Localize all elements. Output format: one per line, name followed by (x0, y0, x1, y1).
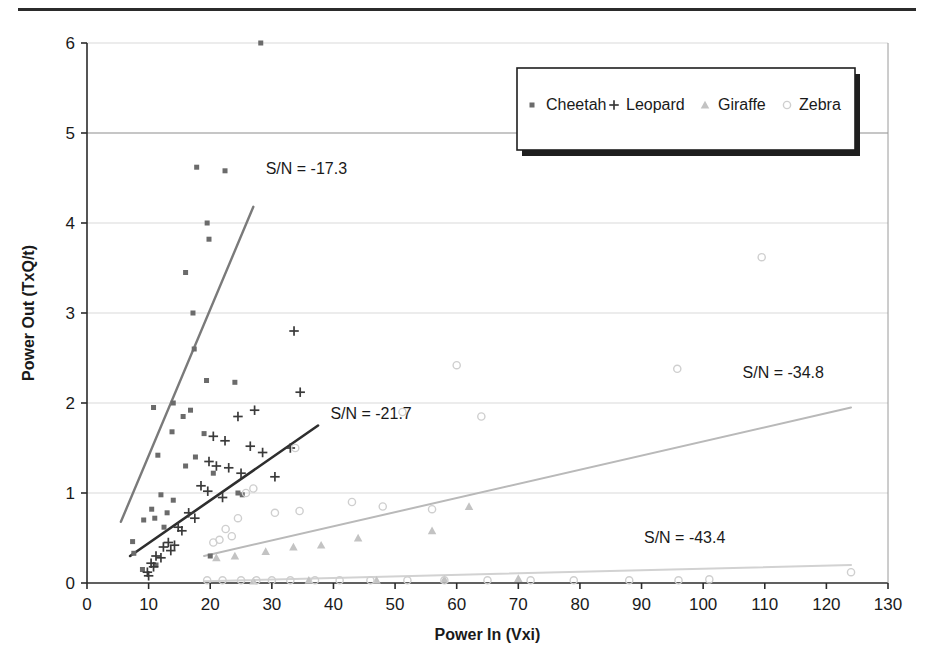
point-zebra-14 (222, 525, 229, 532)
point-zebra-9 (379, 503, 386, 510)
x-tick-label-20: 20 (201, 595, 220, 614)
x-tick-label-40: 40 (324, 595, 343, 614)
point-giraffe-5 (261, 547, 270, 555)
x-tick-label-0: 0 (82, 595, 91, 614)
point-zebra-11 (296, 507, 303, 514)
point-cheetah-14 (170, 429, 175, 434)
y-tick-label-3: 3 (66, 304, 75, 323)
point-giraffe-8 (514, 574, 523, 582)
point-cheetah-29 (130, 539, 135, 544)
point-cheetah-8 (204, 378, 209, 383)
annotation-sn-4: S/N = -43.4 (644, 529, 725, 546)
y-tick-label-5: 5 (66, 124, 75, 143)
point-leopard-5 (220, 436, 230, 446)
x-tick-label-50: 50 (386, 595, 405, 614)
trend-line-3 (204, 408, 851, 557)
point-leopard-10 (212, 461, 222, 471)
y-tick-label-6: 6 (66, 34, 75, 53)
x-tick-label-80: 80 (570, 595, 589, 614)
point-cheetah-4 (206, 237, 211, 242)
series-cheetah (130, 41, 263, 573)
point-zebra-18 (847, 569, 854, 576)
x-tick-label-90: 90 (632, 595, 651, 614)
legend-marker-cheetah (530, 103, 535, 108)
y-tick-label-0: 0 (66, 574, 75, 593)
point-cheetah-16 (155, 453, 160, 458)
point-zebra-2 (453, 362, 460, 369)
x-tick-label-30: 30 (262, 595, 281, 614)
point-leopard-8 (258, 448, 268, 458)
point-cheetah-9 (232, 380, 237, 385)
point-leopard-25 (151, 551, 161, 561)
point-cheetah-27 (141, 518, 146, 523)
point-cheetah-23 (171, 498, 176, 503)
point-cheetah-6 (190, 311, 195, 316)
point-leopard-2 (250, 405, 260, 415)
point-cheetah-24 (149, 507, 154, 512)
x-axis-title: Power In (Vxi) (435, 626, 541, 643)
point-cheetah-0 (258, 41, 263, 46)
point-cheetah-15 (202, 431, 207, 436)
point-cheetah-33 (140, 567, 145, 572)
y-tick-label-4: 4 (66, 214, 75, 233)
scatter-plot-canvas: 01234560102030405060708090100110120130 S… (0, 0, 934, 657)
point-zebra-15 (228, 533, 235, 540)
point-zebra-8 (348, 498, 355, 505)
point-leopard-0 (289, 326, 299, 336)
point-zebra-0 (758, 254, 765, 261)
point-leopard-6 (246, 441, 256, 451)
annotations: S/N = -17.3S/N = -21.7S/N = -34.8S/N = -… (266, 160, 824, 546)
point-cheetah-18 (183, 464, 188, 469)
point-cheetah-5 (183, 270, 188, 275)
point-zebra-1 (674, 365, 681, 372)
y-tick-label-1: 1 (66, 484, 75, 503)
point-cheetah-13 (181, 414, 186, 419)
legend-label-zebra: Zebra (799, 96, 841, 113)
point-zebra-17 (210, 539, 217, 546)
point-cheetah-25 (165, 510, 170, 515)
point-giraffe-3 (317, 541, 326, 549)
annotation-sn-1: S/N = -17.3 (266, 160, 347, 177)
point-cheetah-30 (131, 551, 136, 556)
point-zebra-10 (428, 506, 435, 513)
point-cheetah-31 (208, 554, 213, 559)
trend-lines (121, 207, 851, 581)
point-leopard-3 (233, 412, 243, 422)
y-axis-title: Power Out (TxQ/t) (20, 245, 37, 381)
annotation-sn-2: S/N = -21.7 (330, 405, 411, 422)
point-zebra-13 (234, 515, 241, 522)
point-cheetah-19 (211, 471, 216, 476)
legend-label-cheetah: Cheetah (546, 96, 607, 113)
point-zebra-3 (478, 413, 485, 420)
point-cheetah-28 (162, 525, 167, 530)
x-tick-label-100: 100 (689, 595, 717, 614)
legend-label-giraffe: Giraffe (718, 96, 766, 113)
point-cheetah-12 (188, 408, 193, 413)
point-cheetah-20 (235, 491, 240, 496)
point-cheetah-10 (171, 401, 176, 406)
point-leopard-9 (204, 457, 214, 467)
point-zebra-6 (250, 485, 257, 492)
x-tick-label-130: 130 (874, 595, 902, 614)
point-cheetah-11 (151, 405, 156, 410)
point-cheetah-1 (194, 165, 199, 170)
chart-legend: CheetahLeopardGiraffeZebra (517, 68, 860, 156)
point-zebra-12 (271, 509, 278, 516)
point-leopard-14 (196, 481, 206, 491)
chart-figure: 01234560102030405060708090100110120130 S… (0, 0, 934, 657)
point-cheetah-3 (205, 221, 210, 226)
point-leopard-11 (224, 463, 234, 473)
point-leopard-4 (209, 432, 219, 442)
point-giraffe-1 (428, 527, 437, 535)
x-tick-label-60: 60 (447, 595, 466, 614)
point-giraffe-2 (354, 534, 363, 542)
x-tick-label-120: 120 (812, 595, 840, 614)
annotation-sn-3: S/N = -34.8 (743, 364, 824, 381)
legend-label-leopard: Leopard (626, 96, 685, 113)
y-tick-label-2: 2 (66, 394, 75, 413)
point-giraffe-6 (231, 552, 240, 560)
x-tick-label-10: 10 (139, 595, 158, 614)
point-cheetah-22 (158, 492, 163, 497)
point-giraffe-0 (465, 502, 474, 510)
x-tick-label-110: 110 (751, 595, 778, 614)
